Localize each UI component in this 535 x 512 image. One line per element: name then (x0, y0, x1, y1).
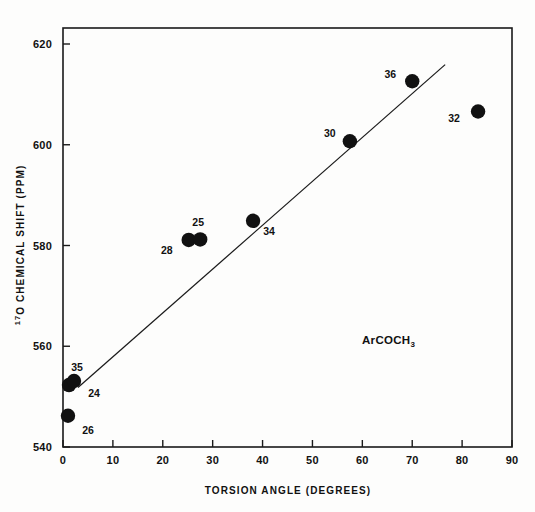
data-point (67, 374, 81, 388)
chart-figure: 0102030405060708090540560580600620 26352… (0, 0, 535, 512)
y-tick-label: 620 (33, 38, 52, 50)
x-tick-label: 80 (456, 454, 469, 466)
x-tick-label: 0 (60, 454, 66, 466)
data-point-label: 32 (448, 112, 460, 124)
data-point (246, 214, 260, 228)
y-tick-label: 560 (33, 340, 52, 352)
y-axis-title-text: 17O CHEMICAL SHIFT (PPM) (13, 165, 26, 326)
x-tick-label: 90 (506, 454, 519, 466)
data-point-label: 28 (161, 244, 173, 256)
data-point-label: 24 (88, 387, 100, 399)
y-tick-label: 540 (33, 441, 52, 453)
x-tick-label: 50 (306, 454, 319, 466)
x-tick-label: 70 (406, 454, 419, 466)
y-tick-label: 580 (33, 240, 52, 252)
data-point (61, 409, 75, 423)
scatter-plot: 0102030405060708090540560580600620 26352… (0, 0, 535, 512)
x-tick-label: 20 (156, 454, 169, 466)
x-axis-title: TORSION ANGLE (DEGREES) (205, 485, 371, 496)
data-point-label: 34 (263, 225, 275, 237)
x-tick-label: 30 (206, 454, 219, 466)
x-tick-label: 60 (356, 454, 369, 466)
data-point (343, 134, 357, 148)
x-tick-label: 10 (107, 454, 120, 466)
annotation-formula: ArCOCH (362, 334, 410, 346)
data-point (193, 232, 207, 246)
data-point-label: 26 (82, 424, 94, 436)
data-point (471, 104, 485, 118)
data-point-label: 25 (192, 216, 204, 228)
data-point (405, 74, 419, 88)
y-axis-title-main: O CHEMICAL SHIFT (PPM) (15, 165, 26, 315)
y-axis-title: 17O CHEMICAL SHIFT (PPM) (13, 165, 26, 326)
data-point-label: 35 (71, 361, 83, 373)
y-tick-label: 600 (33, 139, 52, 151)
data-point-label: 30 (324, 127, 336, 139)
y-axis-title-superscript: 17 (13, 315, 22, 326)
x-tick-label: 40 (256, 454, 269, 466)
figure-background (0, 0, 535, 512)
data-point-label: 36 (384, 68, 396, 80)
annotation-subscript: 3 (410, 340, 415, 349)
